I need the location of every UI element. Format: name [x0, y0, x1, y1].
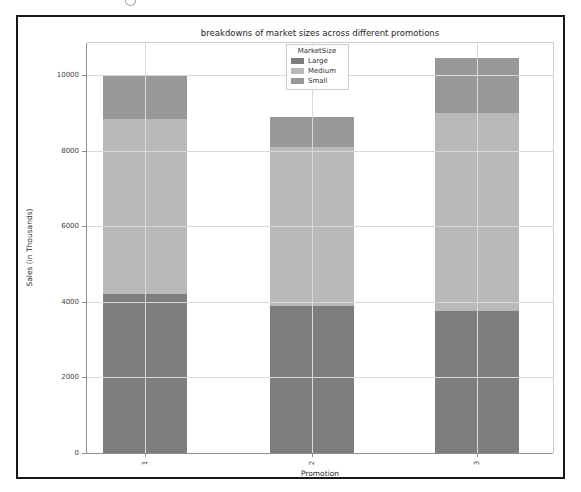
y-axis-line: [86, 43, 87, 454]
legend-swatch-small-icon: [291, 78, 304, 84]
y-tick-label: 0: [39, 449, 79, 457]
legend: MarketSize LargeMediumSmall: [286, 44, 349, 90]
v-gridline: [312, 43, 313, 453]
legend-item-medium: Medium: [291, 66, 343, 76]
legend-label: Large: [308, 57, 328, 65]
h-gridline: [87, 302, 553, 303]
h-gridline: [87, 226, 553, 227]
y-tick-label: 2000: [39, 373, 79, 381]
y-tick-label: 8000: [39, 147, 79, 155]
page: breakdowns of market sizes across differ…: [0, 0, 581, 492]
v-gridline: [477, 43, 478, 453]
y-tick-label: 4000: [39, 298, 79, 306]
x-tick-label: 3: [473, 456, 481, 470]
legend-item-large: Large: [291, 56, 343, 66]
v-gridline: [145, 43, 146, 453]
legend-label: Small: [308, 77, 327, 85]
legend-items: LargeMediumSmall: [291, 56, 343, 86]
top-spine: [87, 42, 554, 43]
right-spine: [553, 42, 554, 453]
h-gridline: [87, 151, 553, 152]
h-gridline: [87, 377, 553, 378]
legend-label: Medium: [308, 67, 336, 75]
chart-title: breakdowns of market sizes across differ…: [87, 28, 553, 38]
x-axis-label: Promotion: [87, 469, 553, 478]
y-axis-label: Sales (in Thousands): [25, 148, 34, 348]
legend-swatch-large-icon: [291, 58, 304, 64]
y-tick-label: 10000: [39, 71, 79, 79]
legend-title: MarketSize: [291, 47, 343, 55]
cropped-text-artifact: [125, 0, 136, 6]
x-tick-label: 1: [141, 456, 149, 470]
legend-swatch-medium-icon: [291, 68, 304, 74]
y-tick-label: 6000: [39, 222, 79, 230]
x-axis-line: [86, 453, 553, 454]
legend-item-small: Small: [291, 76, 343, 86]
x-tick-label: 2: [308, 456, 316, 470]
plot-area: [87, 43, 553, 453]
